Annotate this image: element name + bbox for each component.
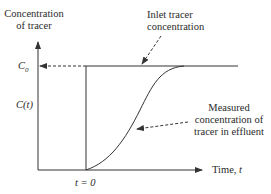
measured-label: Measured concentration of tracer in effl… [190,102,268,138]
inlet-label: Inlet tracer concentration [147,9,204,33]
y-axis-label-line2: of tracer [4,20,64,32]
y-axis-label-line1: Concentration [4,8,64,20]
measured-label-line2: concentration of [190,114,268,126]
measured-label-line1: Measured [190,102,268,114]
measured-curve [86,66,184,170]
t0-label: t = 0 [75,177,96,189]
c0-label: C0 [18,60,29,76]
x-axis-label: Time, t [212,164,242,176]
c0-label-sub: 0 [25,66,29,74]
measured-label-line3: tracer in effluent [190,126,268,138]
c0-label-main: C [18,60,25,71]
x-axis-label-prefix: Time, [212,164,239,175]
measured-pointer-arrow [137,122,188,129]
inlet-label-line2: concentration [147,21,204,33]
inlet-pointer-arrow [142,36,161,64]
inlet-label-line1: Inlet tracer [147,9,204,21]
x-axis-label-var: t [239,164,242,175]
ct-label: C(t) [16,99,33,111]
y-axis-label: Concentration of tracer [4,8,64,32]
